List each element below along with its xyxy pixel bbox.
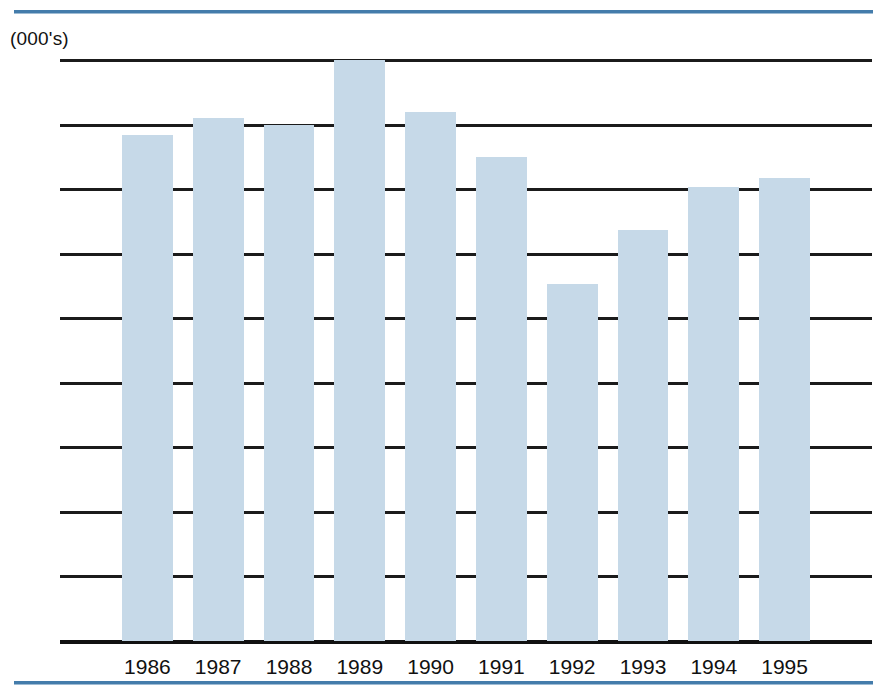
gridline-150 [60,317,872,320]
bar-1986 [122,135,173,641]
gridline-120 [60,382,872,385]
gridline-60 [60,511,872,514]
bar-1991 [476,157,527,641]
gridline-30 [60,575,872,578]
x-tick-label-1987: 1987 [183,656,254,677]
x-tick-label-1992: 1992 [537,656,608,677]
x-tick-label-1994: 1994 [678,656,749,677]
gridline-0 [60,640,872,644]
bar-1993 [618,230,669,641]
x-tick-label-1988: 1988 [254,656,325,677]
bar-1990 [405,112,456,641]
x-tick-label-1989: 1989 [324,656,395,677]
gridline-240 [60,124,872,127]
bar-1987 [193,118,244,641]
bar-1988 [264,125,315,641]
x-tick-label-1993: 1993 [608,656,679,677]
bar-1992 [547,284,598,641]
bar-1989 [334,60,385,641]
bottom-accent-rule [14,681,873,685]
chart-figure: (000's) 0306090120150180210240270 198619… [0,0,887,697]
x-tick-label-1986: 1986 [112,656,183,677]
x-tick-label-1990: 1990 [395,656,466,677]
gridline-180 [60,253,872,256]
gridline-210 [60,188,872,191]
bar-1995 [759,178,810,641]
top-accent-rule [14,10,873,14]
x-tick-label-1991: 1991 [466,656,537,677]
x-tick-label-1995: 1995 [749,656,820,677]
y-axis-units-label: (000's) [10,28,69,50]
gridline-90 [60,446,872,449]
plot-area: 0306090120150180210240270 19861987198819… [60,60,872,645]
bar-1994 [688,187,739,641]
gridline-270 [60,59,872,62]
